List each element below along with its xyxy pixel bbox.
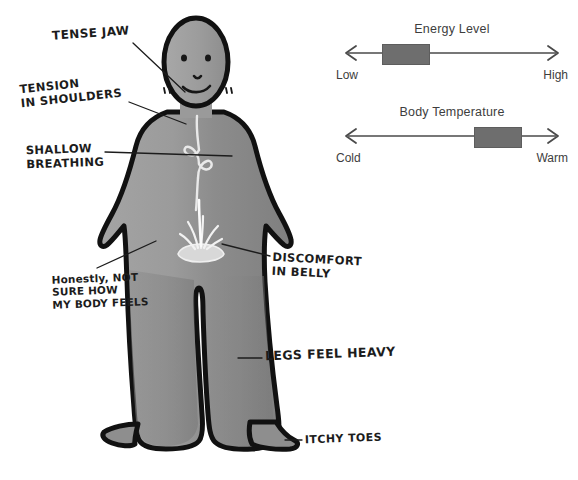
right-ear-mark-icon [226, 88, 232, 93]
slider-energy-left-label: Low [336, 68, 358, 82]
annotation-itchy-toes: ITCHY TOES [305, 432, 382, 448]
left-ear-mark-icon [164, 88, 170, 93]
slider-temperature-track-wrap[interactable] [334, 123, 570, 149]
annotation-discomfort-in-belly: DISCOMFORT IN BELLY [271, 251, 362, 283]
right-foot [249, 422, 297, 449]
left-foot [103, 424, 138, 446]
slider-energy-handle[interactable] [382, 44, 430, 65]
annotation-honestly-not-sure: Honestly, NOT SURE HOW MY BODY FEELS [51, 270, 148, 310]
slider-energy-level[interactable]: Energy Level Low High [334, 22, 570, 82]
left-eye-icon [181, 54, 187, 61]
slider-energy-right-label: High [543, 68, 568, 82]
annotation-shallow-breathing: SHALLOW BREATHING [26, 142, 105, 172]
slider-temperature-left-label: Cold [336, 151, 361, 165]
slider-energy-endlabels: Low High [334, 68, 570, 82]
body-figure [100, 18, 298, 449]
slider-energy-track-wrap[interactable] [334, 40, 570, 66]
slider-temperature-endlabels: Cold Warm [334, 151, 570, 165]
slider-body-temperature[interactable]: Body Temperature Cold Warm [334, 105, 570, 165]
slider-temperature-handle[interactable] [474, 127, 522, 148]
slider-temperature-right-label: Warm [536, 151, 568, 165]
slider-temperature-title: Body Temperature [334, 105, 570, 119]
slider-temperature-axis [334, 123, 570, 149]
slider-energy-title: Energy Level [334, 22, 570, 36]
slider-energy-axis [334, 40, 570, 66]
right-eye-icon [205, 54, 211, 61]
